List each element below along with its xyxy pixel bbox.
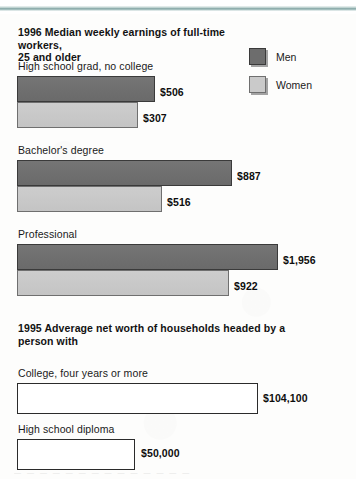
bottom-section-title: 1995 Adverage net worth of households he… <box>18 322 308 347</box>
bar-women-professional <box>17 270 229 296</box>
scanned-page: 1996 Median weekly earnings of full-time… <box>0 0 356 479</box>
group-label-hsdiploma: High school diploma <box>18 423 114 435</box>
page-bleed-through: — — — — — — — — — — — — — — <box>14 469 344 477</box>
men-swatch-icon <box>249 48 266 65</box>
value-college-networth: $104,100 <box>263 392 308 404</box>
value-women-highschool: $307 <box>143 112 167 124</box>
value-hsdiploma-networth: $50,000 <box>141 447 180 459</box>
value-men-highschool: $506 <box>160 86 184 98</box>
bar-hsdiploma-networth <box>17 439 135 470</box>
bar-men-highschool <box>17 76 155 102</box>
group-label-college: College, four years or more <box>18 367 148 379</box>
group-label-bachelors: Bachelor's degree <box>18 144 104 156</box>
group-label-highschool: High school grad, no college <box>18 60 153 72</box>
value-men-bachelors: $887 <box>237 170 261 182</box>
bottom-title-line2: person with <box>18 335 78 347</box>
top-title-line1: 1996 Median weekly earnings of full-time… <box>18 26 225 51</box>
legend-label-men: Men <box>276 51 296 63</box>
bar-men-professional <box>17 244 278 270</box>
women-swatch-icon <box>249 76 266 93</box>
group-label-professional: Professional <box>18 228 77 240</box>
legend-label-women: Women <box>276 79 312 91</box>
value-men-professional: $1,956 <box>283 254 316 266</box>
bar-men-bachelors <box>17 160 232 186</box>
bar-women-highschool <box>17 102 138 128</box>
value-women-professional: $922 <box>234 280 258 292</box>
bar-college-networth <box>17 383 258 414</box>
top-section-title: 1996 Median weekly earnings of full-time… <box>18 26 268 64</box>
bar-women-bachelors <box>17 186 162 212</box>
page-top-edge <box>0 0 356 14</box>
bottom-title-line1: 1995 Adverage net worth of households he… <box>18 322 285 334</box>
value-women-bachelors: $516 <box>167 196 191 208</box>
